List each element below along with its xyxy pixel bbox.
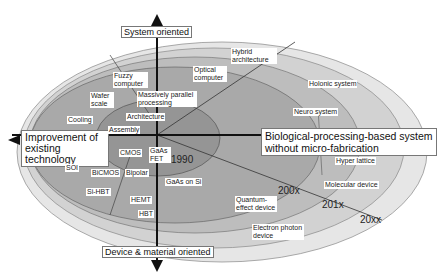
arrow-up-icon bbox=[151, 14, 163, 26]
label-holonic-system: Holonic system bbox=[308, 80, 357, 88]
label-massively-parallel-processing: Massively parallel processing bbox=[137, 91, 197, 107]
label-cooling: Cooling bbox=[67, 116, 93, 124]
era-label-20xx: 20xx bbox=[360, 215, 381, 225]
label-gaas-on-si: GaAs on Si bbox=[165, 178, 202, 186]
arrow-down-icon bbox=[151, 260, 163, 272]
label-gaas-fet: GaAs FET bbox=[149, 147, 171, 163]
label-neuro-system: Neuro system bbox=[293, 108, 338, 116]
arrow-left-icon bbox=[8, 135, 20, 145]
label-hybrid-architecture: Hybrid architecture bbox=[231, 48, 277, 64]
label-hyper-lattice: Hyper lattice bbox=[335, 157, 376, 165]
label-hbt: HBT bbox=[138, 210, 154, 218]
era-label-200x: 200x bbox=[278, 186, 300, 196]
label-bicmos: BiCMOS bbox=[91, 169, 120, 177]
label-wafer-scale: Wafer scale bbox=[90, 92, 114, 108]
label-hemt: HEMT bbox=[130, 196, 152, 204]
label-bipolar: Bipolar bbox=[125, 169, 149, 177]
axis-label-right-line2: without micro-fabrication bbox=[265, 142, 379, 154]
label-cmos: CMOS bbox=[119, 149, 142, 157]
label-si-hbt: Si-HBT bbox=[86, 188, 111, 196]
axis-label-improvement-existing-technology: Improvement of existing technology bbox=[21, 130, 109, 167]
label-architecture: Architecture bbox=[126, 113, 165, 121]
label-optical-computer: Optical computer bbox=[193, 66, 227, 82]
era-label-201x: 201x bbox=[322, 200, 344, 210]
axis-label-device-material-oriented: Device & material oriented bbox=[102, 246, 214, 258]
label-quantum-effect-device: Quantum-effect device bbox=[235, 196, 277, 212]
label-assembly: Assembly bbox=[108, 126, 140, 134]
technology-roadmap-diagram: System oriented Device & material orient… bbox=[0, 0, 440, 277]
axis-label-system-oriented: System oriented bbox=[121, 26, 192, 38]
label-electron-photon-device: Electron photon device bbox=[252, 224, 304, 240]
label-fuzzy-computer: Fuzzy computer bbox=[113, 72, 148, 88]
axis-label-biological-processing: Biological-processing-based system witho… bbox=[261, 128, 437, 156]
axis-label-right-line1: Biological-processing-based system bbox=[265, 130, 433, 142]
label-molecular-device: Molecular device bbox=[324, 181, 379, 189]
label-soi: SOI bbox=[65, 164, 79, 172]
axis-label-left-line2: existing technology bbox=[25, 142, 76, 165]
era-label-1990: 1990 bbox=[171, 155, 193, 165]
